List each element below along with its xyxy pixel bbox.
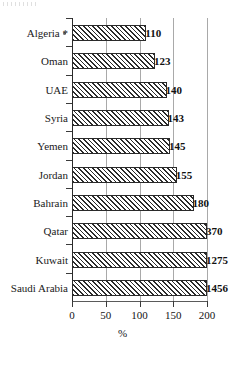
category-label: UAE	[0, 84, 68, 96]
bar	[72, 223, 207, 239]
bar	[72, 53, 155, 69]
bar	[72, 195, 194, 211]
y-tick-6	[66, 188, 72, 189]
category-label-text: Kuwait	[36, 254, 68, 266]
x-tick-150	[173, 301, 174, 307]
category-label: Saudi Arabia	[0, 282, 68, 294]
bar	[72, 167, 177, 183]
bar-value-label: 1275	[206, 254, 228, 266]
x-tick-label-100: 100	[125, 309, 155, 322]
y-tick-8	[66, 244, 72, 245]
bar	[72, 110, 169, 126]
bar-value-label: 145	[169, 140, 186, 152]
category-label: Bahrain	[0, 197, 68, 209]
x-tick-label-150: 150	[158, 309, 188, 322]
bar-value-label: 140	[166, 84, 183, 96]
bar	[72, 25, 146, 41]
x-tick-50	[106, 301, 107, 307]
y-tick-1	[66, 46, 72, 47]
bar	[72, 82, 167, 98]
category-label-text: Syria	[45, 112, 68, 124]
bar	[72, 280, 207, 296]
x-tick-label-50: 50	[91, 309, 121, 322]
category-label-text: Qatar	[44, 225, 68, 237]
y-tick-5	[66, 160, 72, 161]
y-tick-9	[66, 273, 72, 274]
category-label: Kuwait	[0, 254, 68, 266]
category-label: Yemen	[0, 140, 68, 152]
category-label-text: UAE	[45, 84, 68, 96]
bar-value-label: 123	[154, 55, 171, 67]
bar-value-label: 143	[168, 112, 185, 124]
category-label-text: Bahrain	[33, 197, 68, 209]
category-label-text: Yemen	[37, 140, 68, 152]
x-tick-label-200: 200	[192, 309, 222, 322]
category-label-text: Algeria *	[27, 27, 68, 39]
y-tick-3	[66, 103, 72, 104]
bar-value-label: 155	[176, 169, 193, 181]
x-tick-0	[72, 301, 73, 307]
category-label-text: Oman	[41, 55, 68, 67]
bar-chart: Algeria *OmanUAESyriaYemenJordanBahrainQ…	[0, 0, 237, 368]
bar	[72, 138, 170, 154]
y-tick-2	[66, 75, 72, 76]
y-tick-0	[66, 18, 72, 19]
x-tick-label-0: 0	[57, 309, 87, 322]
bar-value-label: 1456	[206, 282, 228, 294]
scan-artifact	[3, 2, 37, 6]
category-label: Jordan	[0, 169, 68, 181]
y-tick-7	[66, 216, 72, 217]
bar-value-label: 180	[193, 197, 210, 209]
bar-value-label: 110	[145, 27, 161, 39]
y-tick-4	[66, 131, 72, 132]
x-axis-title-text: %	[118, 327, 127, 339]
category-label: Qatar	[0, 225, 68, 237]
category-label-text: Saudi Arabia	[11, 282, 68, 294]
category-label: Oman	[0, 55, 68, 67]
category-label: Syria	[0, 112, 68, 124]
category-label-text: Jordan	[39, 169, 68, 181]
x-tick-100	[140, 301, 141, 307]
category-label: Algeria *	[0, 27, 68, 39]
x-tick-200	[207, 301, 208, 307]
bar	[72, 252, 207, 268]
x-axis-title: %	[0, 327, 237, 339]
bar-value-label: 370	[206, 225, 223, 237]
